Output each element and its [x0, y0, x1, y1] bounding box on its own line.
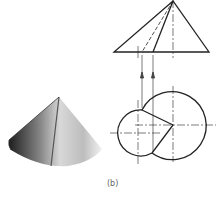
arrow-up-icon: [152, 72, 155, 78]
arrow-up-icon: [141, 72, 144, 78]
figure-caption: (b): [107, 179, 118, 188]
projection-lines: [141, 55, 155, 152]
shaded-cone: [9, 97, 102, 166]
top-view: [110, 86, 216, 166]
cone-diagram: [0, 0, 221, 200]
front-view: [114, 0, 209, 58]
